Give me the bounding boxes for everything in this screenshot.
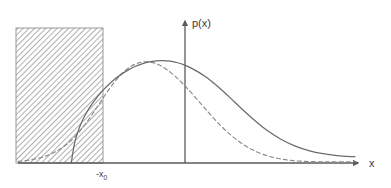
shaded-region-group: [16, 28, 103, 163]
figure-root: p(x) x -x0: [0, 0, 391, 188]
labels-group: p(x) x -x0: [96, 17, 375, 181]
probability-density-chart: p(x) x -x0: [0, 0, 391, 188]
x-axis-label: x: [369, 157, 375, 169]
truncated-density-curve: [71, 61, 355, 163]
hatched-region: [16, 28, 103, 163]
tick-label-minus-x0: -x0: [96, 169, 108, 181]
y-axis-label: p(x): [192, 17, 211, 29]
tick-label-minus-x0-subscript: 0: [104, 174, 108, 181]
